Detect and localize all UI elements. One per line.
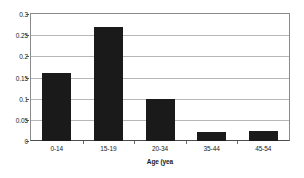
- bar: [94, 27, 123, 141]
- bar: [42, 73, 71, 141]
- bar: [249, 131, 278, 141]
- y-axis-tick-label: 0.1: [2, 95, 28, 102]
- y-axis-tick-mark: [26, 78, 29, 79]
- y-axis-tick-mark: [26, 35, 29, 36]
- x-axis-title: Age (yea: [31, 158, 289, 165]
- x-axis-tick-label: 20-34: [134, 144, 186, 153]
- bar-chart-figure: 00.050.10.150.20.250.3 0-1415-1920-3435-…: [0, 0, 304, 178]
- y-axis-tick-mark: [26, 56, 29, 57]
- y-axis-tick-mark: [26, 99, 29, 100]
- y-axis-tick-mark: [26, 120, 29, 121]
- x-axis-tick-label: 35-44: [186, 144, 238, 153]
- x-axis-tick-labels: 0-1415-1920-3435-4445-54: [31, 144, 289, 155]
- bars-layer: [31, 14, 289, 141]
- bar: [146, 99, 175, 141]
- y-axis-tick-label: 0.3: [2, 11, 28, 18]
- x-axis-tick-label: 0-14: [31, 144, 83, 153]
- y-axis-tick-label: 0.25: [2, 32, 28, 39]
- y-axis-tick-label: 0.15: [2, 74, 28, 81]
- bar: [197, 132, 226, 141]
- y-axis-tick-label: 0.05: [2, 116, 28, 123]
- y-axis-tick-label: 0.2: [2, 53, 28, 60]
- y-axis-tick-mark: [26, 141, 29, 142]
- y-axis-tick-label: 0: [2, 138, 28, 145]
- y-axis-tick-mark: [26, 14, 29, 15]
- x-axis-tick-label: 15-19: [83, 144, 135, 153]
- y-axis-tick-labels: 00.050.10.150.20.250.3: [0, 13, 28, 141]
- x-axis-tick-label: 45-54: [237, 144, 289, 153]
